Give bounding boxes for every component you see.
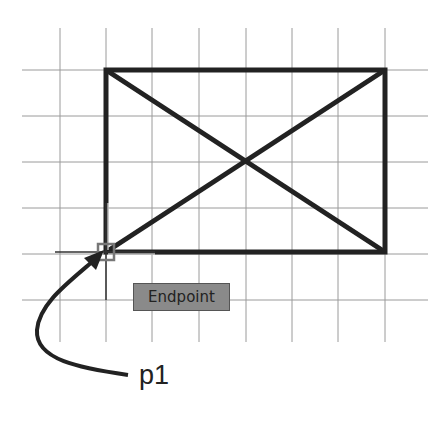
pointer-arrow-icon [37,250,128,375]
point-label-p1: p1 [139,360,169,391]
endpoint-tooltip: Endpoint [133,283,230,311]
cad-drawing-canvas[interactable] [0,0,445,425]
